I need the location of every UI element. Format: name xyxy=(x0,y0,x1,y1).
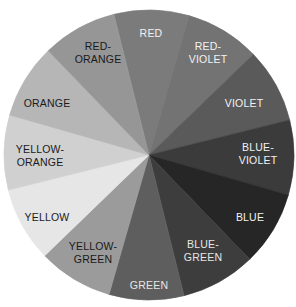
label-violet: VIOLET xyxy=(225,97,264,109)
label-line: BLUE- xyxy=(187,238,219,250)
label-line: RED- xyxy=(195,40,222,52)
label-line: VIOLET xyxy=(225,97,264,109)
label-yellow: YELLOW xyxy=(25,211,70,223)
label-line: ORANGE xyxy=(24,97,71,109)
label-line: YELLOW- xyxy=(16,143,65,155)
label-blue-green: BLUE-GREEN xyxy=(184,238,222,263)
label-line: BLUE xyxy=(236,211,264,223)
label-green: GREEN xyxy=(130,279,168,291)
label-blue: BLUE xyxy=(236,211,264,223)
label-line: GREEN xyxy=(130,279,168,291)
label-line: BLUE- xyxy=(242,141,274,153)
label-line: RED xyxy=(140,27,163,39)
color-wheel-graphic: REDRED-VIOLETVIOLETBLUE-VIOLETBLUEBLUE-G… xyxy=(0,0,296,307)
label-red: RED xyxy=(140,27,163,39)
label-line: VIOLET xyxy=(189,53,228,65)
color-wheel: REDRED-VIOLETVIOLETBLUE-VIOLETBLUEBLUE-G… xyxy=(0,0,296,307)
label-line: ORANGE xyxy=(17,156,64,168)
label-yellow-green: YELLOW-GREEN xyxy=(69,240,118,265)
label-line: GREEN xyxy=(74,253,112,265)
label-yellow-orange: YELLOW-ORANGE xyxy=(16,143,65,168)
label-blue-violet: BLUE-VIOLET xyxy=(239,141,278,166)
label-orange: ORANGE xyxy=(24,97,71,109)
label-line: ORANGE xyxy=(75,53,122,65)
label-line: YELLOW xyxy=(25,211,70,223)
label-line: VIOLET xyxy=(239,154,278,166)
label-line: GREEN xyxy=(184,251,222,263)
label-line: YELLOW- xyxy=(69,240,118,252)
label-line: RED- xyxy=(85,40,112,52)
